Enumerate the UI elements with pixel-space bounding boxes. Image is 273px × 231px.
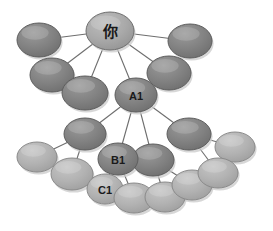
node-highlight bbox=[202, 161, 227, 173]
node-n-tl1[interactable] bbox=[17, 23, 61, 57]
node-highlight bbox=[171, 121, 198, 134]
node-highlight bbox=[68, 121, 94, 134]
node-n-tl3[interactable] bbox=[62, 76, 108, 110]
node-b1[interactable]: B1 bbox=[98, 143, 138, 175]
node-highlight bbox=[149, 185, 174, 197]
node-n-m1[interactable] bbox=[64, 118, 106, 150]
node-n-l1[interactable] bbox=[17, 142, 57, 172]
node-n-l2[interactable] bbox=[51, 158, 93, 190]
node-highlight bbox=[21, 26, 48, 40]
node-highlight bbox=[172, 27, 199, 41]
node-n-r1[interactable] bbox=[215, 132, 255, 162]
node-n-tr2[interactable] bbox=[147, 56, 191, 90]
node-highlight bbox=[176, 173, 201, 185]
node-highlight bbox=[151, 59, 178, 73]
node-highlight bbox=[136, 147, 162, 160]
node-n-r2[interactable] bbox=[198, 158, 238, 188]
node-highlight bbox=[21, 145, 46, 157]
node-highlight bbox=[67, 79, 96, 93]
network-tree-diagram: 你A1B1C1 bbox=[0, 0, 273, 231]
node-root[interactable]: 你 bbox=[86, 12, 134, 50]
node-highlight bbox=[219, 135, 244, 147]
node-highlight bbox=[119, 81, 145, 95]
node-layer: 你A1B1C1 bbox=[17, 12, 255, 213]
node-highlight bbox=[91, 15, 121, 30]
node-n-m3[interactable] bbox=[167, 118, 211, 150]
node-a1[interactable]: A1 bbox=[115, 78, 157, 112]
node-highlight bbox=[102, 146, 127, 159]
node-n-tr1[interactable] bbox=[168, 24, 212, 58]
node-highlight bbox=[34, 61, 61, 75]
node-highlight bbox=[91, 177, 113, 189]
node-highlight bbox=[118, 186, 143, 198]
node-highlight bbox=[55, 161, 81, 174]
diagram-canvas: 你A1B1C1 bbox=[0, 0, 273, 231]
